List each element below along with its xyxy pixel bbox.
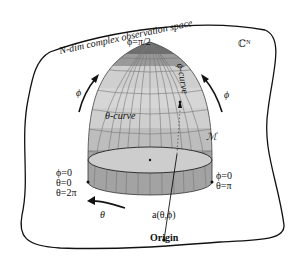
theta-arrow-label: θ <box>100 209 105 220</box>
origin-label: Origin <box>150 232 179 243</box>
manifold-diagram: N-dim complex observation space ℂᴺ ϕ=π/2… <box>0 0 298 266</box>
right-point <box>211 181 214 184</box>
theta-curve-label: θ-curve <box>105 110 136 121</box>
phi-arrow-right-label: ϕ <box>224 89 229 100</box>
space-label: N-dim complex observation space <box>57 17 194 56</box>
right-point-label-2: θ=π <box>216 180 231 191</box>
space-symbol: ℂᴺ <box>238 38 251 49</box>
manifold-surface <box>80 36 220 200</box>
top-label: ϕ=π/2 <box>127 36 151 47</box>
left-point-label-3: θ=2π <box>56 187 76 198</box>
left-point <box>87 181 90 184</box>
manifold-symbol: ℳ <box>206 131 218 142</box>
vector-label: a(θ,ϕ) <box>152 209 176 221</box>
phi-arrow-left-label: ϕ <box>76 87 81 98</box>
theta-arrow <box>91 201 125 208</box>
